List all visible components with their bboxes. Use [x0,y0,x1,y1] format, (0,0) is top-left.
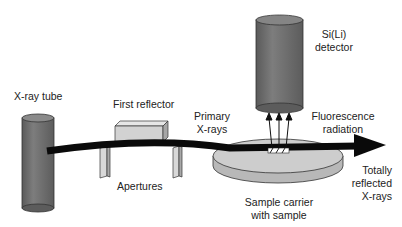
primary-xrays-line2: X-rays [190,123,234,136]
fluorescence-line1: Fluorescence [308,110,378,123]
sample-icon [268,148,289,153]
sample-carrier-label: Sample carrier with sample [244,196,314,222]
reflected-line3: X-rays [340,190,392,203]
xray-tube-icon [22,114,54,212]
first-reflector-label: First reflector [113,98,174,111]
aperture-left-icon [100,146,110,178]
detector-label: Si(Li) detector [312,28,356,54]
sample-carrier-line2: with sample [244,209,314,222]
first-reflector-icon [115,121,168,142]
detector-line1: Si(Li) [312,28,356,41]
primary-xrays-line1: Primary [190,110,234,123]
beam-arrowhead-icon [354,134,386,157]
sample-carrier-line1: Sample carrier [244,196,314,209]
reflected-line1: Totally [340,164,392,177]
xray-tube-label: X-ray tube [14,90,62,103]
fluorescence-line2: radiation [308,123,378,136]
detector-icon [256,15,303,113]
detector-line2: detector [312,41,356,54]
aperture-right-icon [173,146,182,178]
reflected-xrays-label: Totally reflected X-rays [340,164,392,203]
primary-xrays-label: Primary X-rays [190,110,234,136]
reflected-line2: reflected [340,177,392,190]
xray-beam [47,143,358,151]
apertures-label: Apertures [117,180,163,193]
fluorescence-label: Fluorescence radiation [308,110,378,136]
